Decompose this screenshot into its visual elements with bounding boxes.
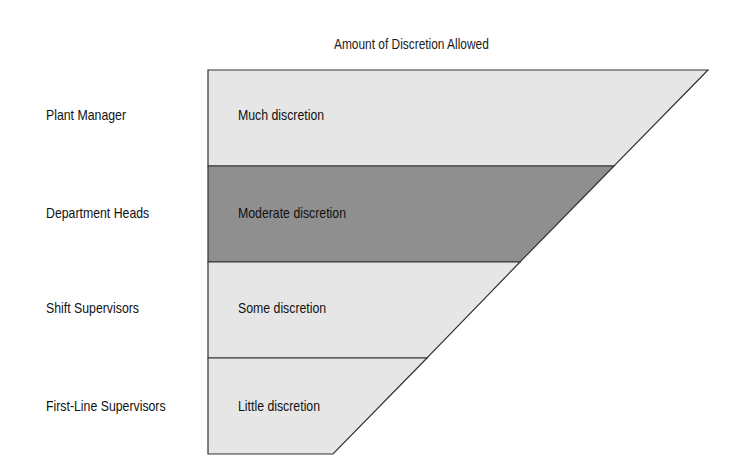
discretion-label-much: Much discretion [238,106,324,123]
role-label-plant-manager: Plant Manager [46,106,126,123]
discretion-label-little: Little discretion [238,397,320,414]
discretion-label-some: Some discretion [238,299,326,316]
role-label-shift-supervisors: Shift Supervisors [46,299,139,316]
role-label-first-line-supervisors: First-Line Supervisors [46,397,166,414]
role-label-department-heads: Department Heads [46,204,149,221]
discretion-label-moderate: Moderate discretion [238,204,346,221]
